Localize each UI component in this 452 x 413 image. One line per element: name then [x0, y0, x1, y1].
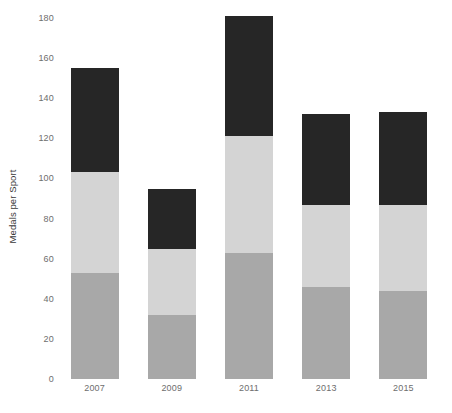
bar-segment-series-middle-2007[interactable] — [71, 172, 119, 272]
plot-area — [56, 18, 442, 379]
bar-segment-series-middle-2015[interactable] — [379, 205, 427, 291]
x-axis-tick-label-2011: 2011 — [239, 383, 259, 393]
bar-stack — [225, 16, 273, 379]
bar-segment-series-bottom-2011[interactable] — [225, 253, 273, 379]
y-axis-tick-label: 100 — [38, 173, 54, 183]
bar-stack — [148, 189, 196, 380]
y-axis-tick-label: 120 — [38, 133, 54, 143]
bar-group-2007[interactable] — [71, 18, 119, 379]
bar-segment-series-top-2007[interactable] — [71, 68, 119, 172]
y-axis-tick-label: 40 — [44, 294, 54, 304]
bar-segment-series-top-2015[interactable] — [379, 112, 427, 204]
x-axis-tick-label-2013: 2013 — [316, 383, 337, 393]
bar-segment-series-bottom-2013[interactable] — [302, 287, 350, 379]
y-axis-tick-label: 0 — [49, 374, 54, 384]
bar-segment-series-middle-2013[interactable] — [302, 205, 350, 287]
bar-group-2011[interactable] — [225, 18, 273, 379]
y-axis-tick-label: 80 — [44, 214, 54, 224]
x-axis-tick-label-2007: 2007 — [84, 383, 105, 393]
bar-segment-series-middle-2009[interactable] — [148, 249, 196, 315]
bar-segment-series-bottom-2015[interactable] — [379, 291, 427, 379]
bar-segment-series-bottom-2007[interactable] — [71, 273, 119, 379]
y-axis-tick-label: 140 — [38, 93, 54, 103]
bar-group-2015[interactable] — [379, 18, 427, 379]
x-axis-tick-labels: 20072009201120132015 — [56, 383, 442, 403]
bar-group-2013[interactable] — [302, 18, 350, 379]
bar-segment-series-bottom-2009[interactable] — [148, 315, 196, 379]
bar-segment-series-top-2009[interactable] — [148, 189, 196, 249]
stacked-bar-chart: Medals per Sport 02040608010012014016018… — [0, 0, 452, 413]
y-axis-tick-label: 20 — [44, 334, 54, 344]
bar-segment-series-top-2013[interactable] — [302, 114, 350, 204]
bar-segment-series-middle-2011[interactable] — [225, 136, 273, 252]
y-axis-tick-label: 60 — [44, 254, 54, 264]
bar-group-2009[interactable] — [148, 18, 196, 379]
bar-stack — [379, 112, 427, 379]
bar-stack — [71, 68, 119, 379]
bar-stack — [302, 114, 350, 379]
x-axis-tick-label-2015: 2015 — [393, 383, 414, 393]
y-axis-tick-label: 160 — [38, 53, 54, 63]
bar-segment-series-top-2011[interactable] — [225, 16, 273, 136]
x-axis-tick-label-2009: 2009 — [161, 383, 182, 393]
y-axis-tick-label: 180 — [38, 13, 54, 23]
